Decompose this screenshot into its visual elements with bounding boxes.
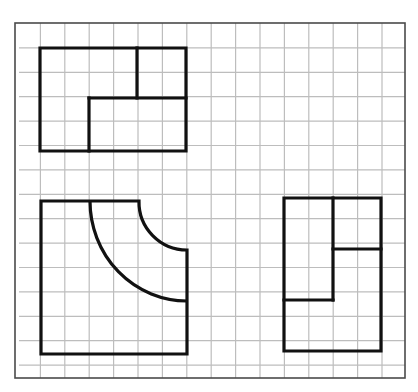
- grid-diagram: [0, 0, 418, 392]
- right-view: [284, 198, 381, 351]
